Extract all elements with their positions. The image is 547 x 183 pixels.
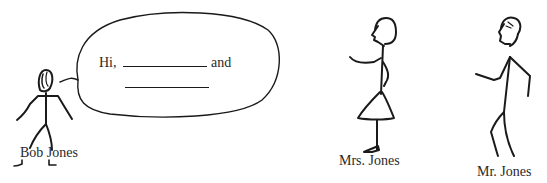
mrs-jones-face xyxy=(372,26,384,46)
mr-jones-arm-back xyxy=(510,57,530,96)
illustration xyxy=(0,0,547,183)
mrs-jones-hair xyxy=(375,18,396,44)
figure-mr-jones xyxy=(476,17,530,156)
bubble-conjunction: and xyxy=(211,56,231,70)
mr-jones-arm-front xyxy=(476,57,510,80)
mrs-jones-dress xyxy=(358,92,394,120)
mr-jones-legs xyxy=(491,112,514,156)
figure-mrs-jones xyxy=(350,18,396,152)
bob-arms xyxy=(17,96,72,120)
label-bob-jones: Bob Jones xyxy=(20,146,78,160)
bubble-greeting: Hi, xyxy=(99,56,117,70)
name-blank-1[interactable] xyxy=(123,66,207,67)
label-mrs-jones: Mrs. Jones xyxy=(339,154,400,168)
speech-bubble-tail xyxy=(60,78,78,82)
mrs-jones-arm-back xyxy=(383,62,388,86)
name-blank-2[interactable] xyxy=(125,87,209,88)
mrs-jones-arm-front xyxy=(350,57,381,63)
speech-bubble xyxy=(60,13,279,117)
label-mr-jones: Mr. Jones xyxy=(477,165,531,179)
